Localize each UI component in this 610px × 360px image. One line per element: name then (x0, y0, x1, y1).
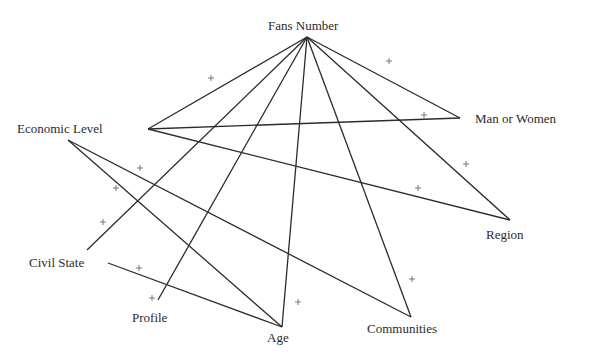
edge-fans-number-to-profile (158, 37, 307, 300)
node-label-communities: Communities (367, 322, 437, 335)
plus-icon (208, 75, 214, 81)
plus-icon (421, 112, 427, 118)
plus-icon (113, 185, 119, 191)
diagram-canvas: Fans Number Economic Level Man or Women … (0, 0, 610, 360)
node-label-economic-level: Economic Level (17, 122, 103, 135)
edge-fans-number-to-communities (307, 37, 411, 317)
node-label-civil-state: Civil State (29, 256, 84, 269)
node-label-fans-number: Fans Number (268, 19, 338, 32)
node-label-age: Age (267, 331, 289, 344)
edge-fans-number-to-region (307, 37, 510, 220)
edge-economic-level-to-man-or-women (148, 118, 460, 129)
edges-layer (0, 0, 610, 360)
edge-fans-number-to-economic-level (148, 37, 307, 129)
node-label-profile: Profile (132, 311, 167, 324)
plus-icon (463, 161, 469, 167)
edge-fans-number-to-civil-state (87, 37, 307, 250)
plus-icon (295, 299, 301, 305)
plus-icon (136, 265, 142, 271)
node-label-region: Region (486, 228, 524, 241)
plus-icon (137, 165, 143, 171)
plus-icon (100, 219, 106, 225)
plus-icon (415, 185, 421, 191)
node-label-man-or-women: Man or Women (475, 112, 556, 125)
edge-fans-number-to-age (282, 37, 307, 327)
plus-icon (409, 276, 415, 282)
edge-economic-level-to-region (148, 129, 510, 220)
plus-icon (386, 58, 392, 64)
plus-icon (149, 295, 155, 301)
